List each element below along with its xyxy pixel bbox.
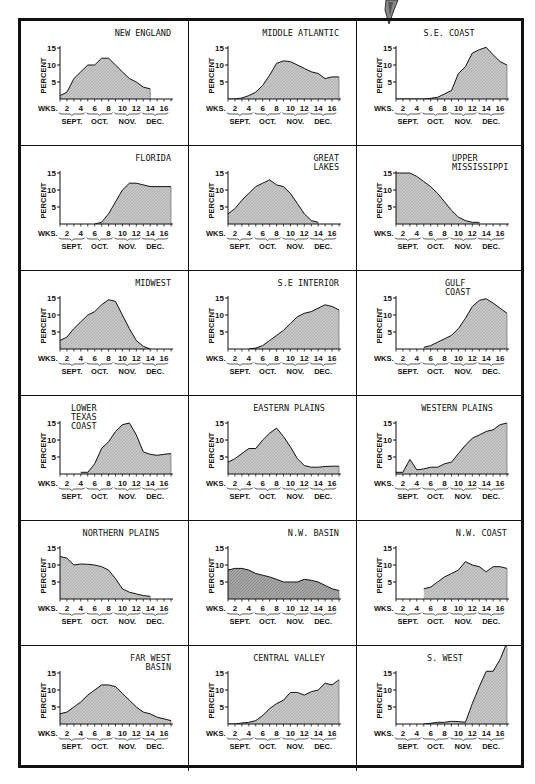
x-tick-label: 14 xyxy=(146,729,155,738)
x-axis-label: WKS. xyxy=(38,729,58,738)
y-axis-label: PERCENT xyxy=(39,307,48,343)
month-label: DEC. xyxy=(146,492,164,501)
area-fill xyxy=(424,299,507,349)
x-tick-label: 14 xyxy=(482,104,491,113)
x-tick-label: 14 xyxy=(146,604,155,613)
x-tick-label: 12 xyxy=(468,229,477,238)
x-tick-label: 4 xyxy=(79,104,84,113)
x-tick-label: 2 xyxy=(233,104,238,113)
chart-svg: 51015PERCENT246810121416WKS.SEPT.OCT.NOV… xyxy=(189,271,357,396)
x-tick-label: 6 xyxy=(92,229,97,238)
chart-title-line: FLORIDA xyxy=(135,153,171,163)
x-tick-label: 10 xyxy=(286,729,295,738)
month-label: SEPT. xyxy=(397,117,418,126)
x-tick-label: 12 xyxy=(132,229,141,238)
x-tick-label: 2 xyxy=(401,104,406,113)
y-tick-label: 10 xyxy=(215,436,224,445)
month-label: DEC. xyxy=(146,242,164,251)
month-label: OCT. xyxy=(259,117,276,126)
month-label: SEPT. xyxy=(61,367,82,376)
y-tick-label: 15 xyxy=(383,169,392,178)
chart-title: CENTRAL VALLEY xyxy=(253,653,325,663)
chart-panel-middle-atlantic: 51015PERCENT246810121416WKS.SEPT.OCT.NOV… xyxy=(189,21,357,146)
month-label: OCT. xyxy=(259,242,276,251)
x-tick-label: 10 xyxy=(286,229,295,238)
chart-svg: 51015PERCENT246810121416WKS.SEPT.OCT.NOV… xyxy=(357,646,521,771)
x-tick-label: 6 xyxy=(260,229,265,238)
x-tick-label: 6 xyxy=(428,604,433,613)
x-tick-label: 4 xyxy=(415,479,420,488)
y-tick-label: 5 xyxy=(388,78,393,87)
month-label: NOV. xyxy=(119,492,137,501)
month-label: NOV. xyxy=(455,242,473,251)
y-axis-label: PERCENT xyxy=(207,557,216,593)
y-axis-label: PERCENT xyxy=(207,307,216,343)
x-tick-label: 14 xyxy=(482,729,491,738)
chart-title-line: MIDWEST xyxy=(135,278,171,288)
x-axis-label: WKS. xyxy=(206,604,226,613)
y-tick-label: 10 xyxy=(47,436,56,445)
chart-title: S.E INTERIOR xyxy=(278,278,340,288)
x-tick-label: 10 xyxy=(454,604,463,613)
x-tick-label: 16 xyxy=(160,479,169,488)
y-tick-label: 5 xyxy=(52,578,57,587)
y-tick-label: 5 xyxy=(220,453,225,462)
y-tick-label: 5 xyxy=(388,203,393,212)
y-tick-label: 10 xyxy=(47,186,56,195)
y-axis-label: PERCENT xyxy=(375,432,384,468)
y-tick-label: 5 xyxy=(52,703,57,712)
x-axis-label: WKS. xyxy=(38,604,58,613)
x-tick-label: 8 xyxy=(274,104,279,113)
x-tick-label: 4 xyxy=(247,479,252,488)
x-axis-label: WKS. xyxy=(374,104,394,113)
x-tick-label: 6 xyxy=(428,104,433,113)
x-tick-label: 6 xyxy=(92,354,97,363)
chart-svg: 51015PERCENT246810121416WKS.SEPT.OCT.NOV… xyxy=(189,396,357,521)
area-fill xyxy=(249,305,339,349)
chart-title-line: NEW ENGLAND xyxy=(115,28,171,38)
x-tick-label: 10 xyxy=(118,354,127,363)
month-label: DEC. xyxy=(146,367,164,376)
y-tick-label: 10 xyxy=(215,561,224,570)
month-label: SEPT. xyxy=(61,242,82,251)
chart-svg: 51015PERCENT246810121416WKS.SEPT.OCT.NOV… xyxy=(189,146,357,271)
chart-title: N.W. BASIN xyxy=(288,528,339,538)
x-tick-label: 4 xyxy=(247,729,252,738)
x-tick-label: 8 xyxy=(106,104,111,113)
chart-panel-n-w-coast: 51015PERCENT246810121416WKS.SEPT.OCT.NOV… xyxy=(357,521,521,646)
y-tick-label: 15 xyxy=(215,44,224,53)
y-tick-label: 5 xyxy=(388,328,393,337)
x-tick-label: 14 xyxy=(482,229,491,238)
month-label: DEC. xyxy=(146,742,164,751)
month-label: SEPT. xyxy=(397,742,418,751)
y-tick-label: 15 xyxy=(215,419,224,428)
month-label: DEC. xyxy=(314,492,332,501)
chart-svg: 51015PERCENT246810121416WKS.SEPT.OCT.NOV… xyxy=(21,396,189,521)
chart-panel-s-e-coast: 51015PERCENT246810121416WKS.SEPT.OCT.NOV… xyxy=(357,21,521,146)
chart-panel-northern-plains: 51015PERCENT246810121416WKS.SEPT.OCT.NOV… xyxy=(21,521,189,646)
x-tick-label: 2 xyxy=(65,479,70,488)
x-tick-label: 6 xyxy=(92,104,97,113)
x-tick-label: 6 xyxy=(428,479,433,488)
month-label: DEC. xyxy=(482,117,500,126)
y-tick-label: 10 xyxy=(383,311,392,320)
chart-panel-s-west: 51015PERCENT246810121416WKS.SEPT.OCT.NOV… xyxy=(357,646,521,771)
y-tick-label: 5 xyxy=(220,328,225,337)
x-tick-label: 8 xyxy=(274,479,279,488)
x-tick-label: 10 xyxy=(454,229,463,238)
x-tick-label: 14 xyxy=(314,479,323,488)
y-axis-label: PERCENT xyxy=(39,682,48,718)
x-tick-label: 14 xyxy=(314,604,323,613)
y-tick-label: 10 xyxy=(215,61,224,70)
month-label: NOV. xyxy=(287,242,305,251)
x-tick-label: 2 xyxy=(65,604,70,613)
y-axis-label: PERCENT xyxy=(207,182,216,218)
y-axis-label: PERCENT xyxy=(375,57,384,93)
month-label: DEC. xyxy=(314,367,332,376)
chart-title: NEW ENGLAND xyxy=(115,28,171,38)
x-tick-label: 12 xyxy=(300,104,309,113)
x-tick-label: 4 xyxy=(247,604,252,613)
y-tick-label: 5 xyxy=(220,78,225,87)
month-label: OCT. xyxy=(259,492,276,501)
y-tick-label: 10 xyxy=(215,311,224,320)
